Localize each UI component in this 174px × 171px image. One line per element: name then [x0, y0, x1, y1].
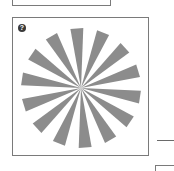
- image-card[interactable]: ?: [12, 17, 149, 156]
- siemens-star-image: [13, 18, 150, 157]
- next-image-card[interactable]: [155, 165, 174, 171]
- previous-image-card[interactable]: [12, 0, 111, 6]
- side-divider: [157, 140, 174, 141]
